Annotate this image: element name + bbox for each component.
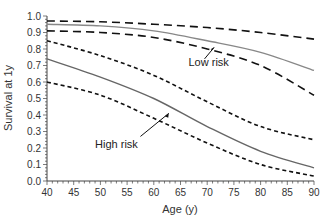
y-tick-label: 0.9 xyxy=(27,27,41,38)
axes: 0.00.10.20.30.40.50.60.70.80.91.04045505… xyxy=(27,11,320,199)
x-tick-label: 55 xyxy=(122,187,134,198)
x-axis-title: Age (y) xyxy=(162,203,197,215)
x-tick-label: 80 xyxy=(255,187,267,198)
y-tick-label: 0.6 xyxy=(27,77,41,88)
x-tick-label: 65 xyxy=(175,187,187,198)
y-tick-label: 0.0 xyxy=(27,176,41,187)
low-risk-upper-ci-curve xyxy=(47,21,314,39)
y-axis-title: Survival at 1y xyxy=(2,64,14,131)
y-tick-label: 0.8 xyxy=(27,44,41,55)
x-tick-label: 75 xyxy=(228,187,240,198)
high-risk-label: High risk xyxy=(95,138,138,150)
y-tick-label: 0.7 xyxy=(27,60,41,71)
x-tick-label: 70 xyxy=(202,187,214,198)
x-tick-label: 60 xyxy=(148,187,160,198)
x-tick-label: 50 xyxy=(95,187,107,198)
low-risk-label: Low risk xyxy=(189,56,230,68)
y-tick-label: 0.3 xyxy=(27,126,41,137)
y-tick-label: 1.0 xyxy=(27,11,41,22)
x-tick-label: 40 xyxy=(41,187,53,198)
x-tick-label: 90 xyxy=(308,187,320,198)
arrowhead-icon xyxy=(211,47,215,50)
survival-chart: 0.00.10.20.30.40.50.60.70.80.91.04045505… xyxy=(0,0,327,222)
high-risk-arrow xyxy=(140,113,168,136)
x-tick-label: 45 xyxy=(68,187,80,198)
low-risk-lower-ci-curve xyxy=(47,31,314,95)
x-tick-label: 85 xyxy=(282,187,294,198)
high-risk-curve xyxy=(47,59,314,168)
curves xyxy=(47,21,314,176)
high-risk-lower-ci-curve xyxy=(47,82,314,176)
high-risk-upper-ci-curve xyxy=(47,41,314,140)
y-tick-label: 0.2 xyxy=(27,143,41,154)
y-tick-label: 0.5 xyxy=(27,93,41,104)
y-tick-label: 0.1 xyxy=(27,159,41,170)
annotations: Low riskHigh risk xyxy=(95,47,229,150)
y-tick-label: 0.4 xyxy=(27,110,41,121)
